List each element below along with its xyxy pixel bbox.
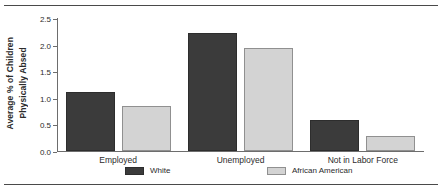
legend-item-african-american: African American [267, 166, 352, 175]
x-axis-group-label: Employed [99, 155, 137, 165]
bar [366, 136, 415, 151]
x-axis-group-label: Not in Labor Force [328, 155, 398, 165]
bottom-divider-rule [4, 184, 438, 185]
y-tick-label: 1.5 [40, 68, 51, 77]
legend-item-white: White [125, 166, 170, 175]
y-tick-label: 1.0 [40, 94, 51, 103]
y-tick-mark [53, 72, 57, 73]
bar [122, 106, 171, 151]
plot-area: 0.00.51.01.52.02.5 EmployedUnemployedNot… [57, 18, 424, 152]
bar [310, 120, 359, 151]
legend-label: White [150, 166, 170, 175]
y-tick-mark [53, 125, 57, 126]
chart-figure: Average % of Children Physically Absed 0… [0, 0, 442, 191]
bar [188, 33, 237, 151]
y-tick-label: 0.5 [40, 121, 51, 130]
top-divider-rule [4, 5, 438, 6]
y-axis-title: Average % of Children Physically Absed [2, 12, 32, 154]
y-axis-line [57, 18, 58, 152]
y-tick-mark [53, 46, 57, 47]
legend-label: African American [292, 166, 352, 175]
y-tick-label: 2.0 [40, 41, 51, 50]
y-tick-label: 0.0 [40, 148, 51, 157]
chart-legend: WhiteAfrican American [57, 166, 424, 178]
legend-swatch-icon [267, 167, 286, 175]
y-tick-mark [53, 152, 57, 153]
y-tick-mark [53, 19, 57, 20]
y-axis-title-line-2: Physically Absed [18, 47, 28, 118]
x-axis-line [57, 151, 424, 152]
bar [66, 92, 115, 151]
y-tick-label: 2.5 [40, 15, 51, 24]
legend-swatch-icon [125, 167, 144, 175]
x-axis-group-label: Unemployed [217, 155, 265, 165]
bar [244, 48, 293, 151]
y-tick-mark [53, 99, 57, 100]
y-axis-title-line-1: Average % of Children [5, 37, 15, 129]
